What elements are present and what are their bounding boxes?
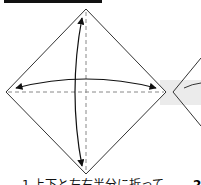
next-step-number: 2 — [193, 178, 201, 185]
step-number: 1 — [22, 178, 30, 185]
step-caption: 1 上下と左右半分に折って — [22, 178, 164, 185]
origami-fold-diagram — [0, 0, 201, 185]
step-text: 上下と左右半分に折って — [33, 178, 164, 185]
